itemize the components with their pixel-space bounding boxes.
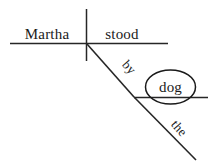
sentence-diagram-svg: Martha stood by dog the [0,0,208,164]
preposition-label: by [119,57,139,77]
verb-label: stood [105,26,139,42]
object-of-preposition-label: dog [159,79,182,95]
sentence-diagram-canvas: Martha stood by dog the [0,0,208,164]
subject-label: Martha [25,26,70,42]
